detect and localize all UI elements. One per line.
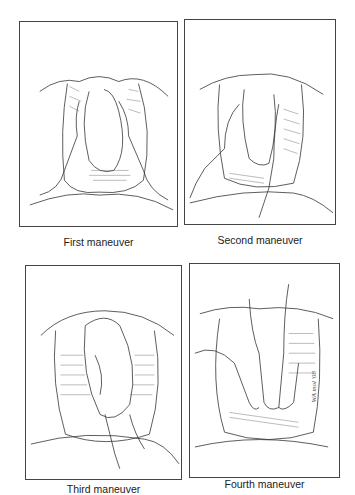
caption-third-maneuver: Third maneuver: [25, 483, 182, 495]
illustration-fourth-maneuver: WA mol '08: [190, 264, 339, 477]
panel-third-maneuver: [25, 265, 182, 480]
artist-signature: WA mol '08: [310, 371, 317, 403]
caption-fourth-maneuver: Fourth maneuver: [189, 478, 340, 490]
illustration-first-maneuver: [20, 22, 177, 226]
panel-first-maneuver: [19, 21, 178, 227]
panel-fourth-maneuver: WA mol '08: [189, 263, 340, 478]
panel-second-maneuver: [184, 19, 336, 225]
illustration-third-maneuver: [26, 266, 181, 479]
caption-first-maneuver: First maneuver: [19, 236, 178, 248]
caption-second-maneuver: Second maneuver: [184, 234, 336, 246]
illustration-second-maneuver: [185, 20, 335, 224]
